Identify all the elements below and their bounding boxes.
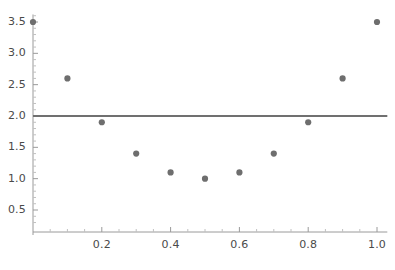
data-point: [340, 75, 346, 81]
x-axis-tick-label: 1.0: [357, 238, 395, 251]
data-point-group: [30, 19, 380, 182]
scatter-plot: 0.20.40.60.81.0 0.51.01.52.02.53.03.5: [0, 0, 395, 270]
y-axis-tick-label: 1.0: [0, 172, 26, 185]
data-point: [99, 119, 105, 125]
data-point: [374, 19, 380, 25]
x-axis-tick-label: 0.4: [151, 238, 191, 251]
data-point: [30, 19, 36, 25]
data-point: [168, 169, 174, 175]
y-axis-tick-label: 2.5: [0, 78, 26, 91]
y-axis-tick-label: 3.5: [0, 15, 26, 28]
y-axis-tick-label: 0.5: [0, 203, 26, 216]
data-point: [305, 119, 311, 125]
axes-group: [33, 14, 387, 235]
y-axis-tick-label: 1.5: [0, 140, 26, 153]
x-axis-major-ticks: [102, 227, 377, 232]
x-axis-tick-label: 0.2: [82, 238, 122, 251]
plot-canvas: [0, 0, 395, 270]
data-point: [133, 151, 139, 157]
data-point: [236, 169, 242, 175]
x-axis-tick-label: 0.6: [219, 238, 259, 251]
x-axis-tick-label: 0.8: [288, 238, 328, 251]
y-axis-tick-label: 2.0: [0, 109, 26, 122]
data-point: [202, 176, 208, 182]
data-point: [64, 75, 70, 81]
data-point: [271, 151, 277, 157]
y-axis-tick-label: 3.0: [0, 46, 26, 59]
